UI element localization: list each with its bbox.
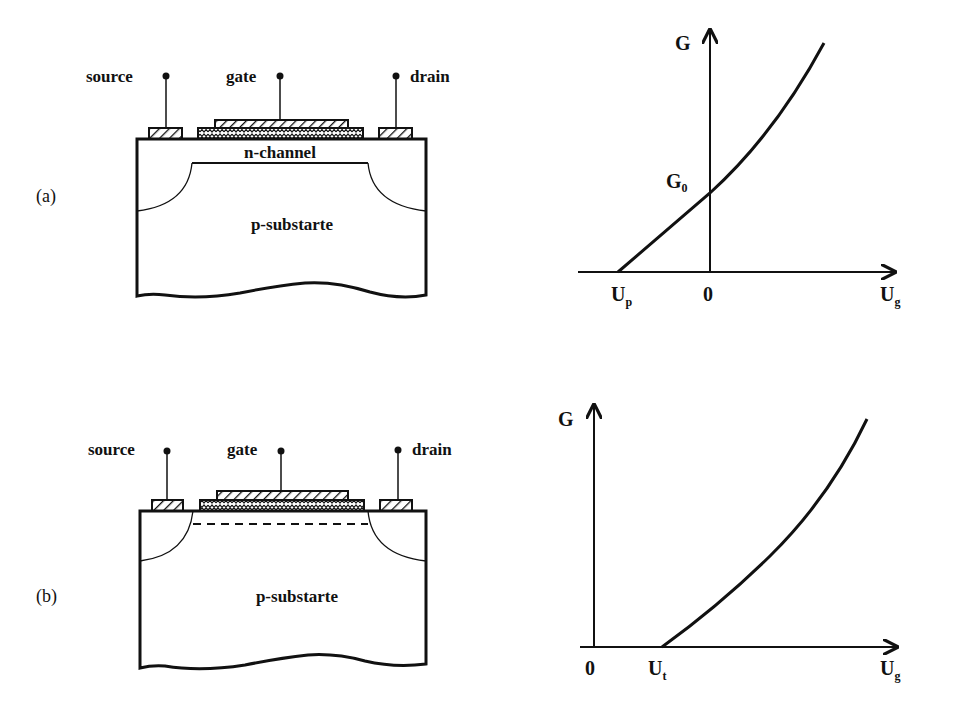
drain-well (368, 163, 426, 211)
source-terminal (163, 73, 170, 129)
mosfet-figure: (a) source gate drain n-channel (0, 0, 956, 727)
n-channel-label: n-channel (244, 143, 316, 162)
g0-label: G0 (666, 170, 688, 195)
gate-metal (215, 120, 348, 128)
conductance-curve (662, 419, 867, 647)
source-terminal (164, 448, 171, 501)
ut-label: Ut (648, 657, 666, 683)
origin-label: 0 (585, 657, 595, 679)
gate-oxide (198, 128, 363, 139)
drain-terminal (395, 447, 402, 501)
x-axis-label: Ug (880, 283, 900, 309)
source-contact (152, 500, 183, 511)
panel-a-graph: G G0 0 Up Ug (578, 30, 900, 309)
gate-label: gate (227, 440, 258, 459)
gate-terminal (278, 448, 285, 492)
origin-label: 0 (703, 283, 713, 305)
substrate-label: p-substarte (256, 587, 339, 606)
drain-label: drain (412, 440, 452, 459)
gate-label: gate (226, 67, 257, 86)
gate-metal (217, 491, 348, 500)
gate-terminal (277, 73, 284, 121)
y-axis-label: G (558, 408, 574, 430)
panel-b-label: (b) (36, 586, 57, 607)
panel-b-device: (b) source gate drain p-substarte (36, 440, 452, 669)
x-axis-label: Ug (880, 657, 900, 683)
substrate-label: p-substarte (251, 215, 334, 234)
source-well (140, 511, 193, 561)
y-axis-label: G (675, 32, 691, 54)
source-well (137, 163, 192, 211)
drain-terminal (393, 73, 400, 129)
source-label: source (86, 67, 133, 86)
panel-a-device: (a) source gate drain n-channel (36, 67, 450, 297)
conductance-curve (618, 43, 824, 272)
gate-oxide (200, 500, 364, 511)
drain-label: drain (410, 67, 450, 86)
drain-contact (379, 128, 412, 139)
panel-a-label: (a) (36, 186, 56, 207)
drain-contact (380, 500, 412, 511)
source-contact (149, 128, 182, 139)
up-label: Up (611, 283, 632, 309)
drain-well (368, 511, 426, 561)
source-label: source (88, 440, 135, 459)
panel-b-graph: G 0 Ut Ug (558, 405, 900, 683)
